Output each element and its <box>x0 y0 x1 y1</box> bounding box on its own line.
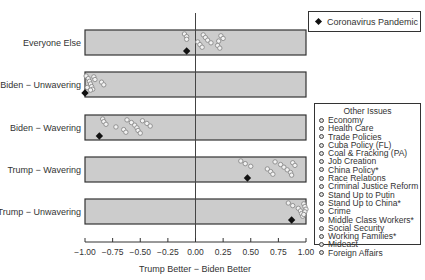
circle-marker-icon <box>319 134 324 139</box>
x-axis: −1.00−0.75−0.50−0.250.000.250.500.751.00 <box>74 238 314 257</box>
circle-marker-icon <box>319 118 324 123</box>
legend-list: EconomyHealth CareTrade PoliciesCuba Pol… <box>315 116 420 257</box>
circle-marker-icon <box>319 242 324 247</box>
x-tick-label: 0.75 <box>270 247 287 257</box>
legend-other-issues: Other Issues EconomyHealth CareTrade Pol… <box>314 103 421 245</box>
circle-marker-icon <box>319 192 324 197</box>
y-axis-labels: Everyone ElseBiden − UnwaveringBiden − W… <box>0 38 81 217</box>
issue-point <box>273 160 277 164</box>
issue-point <box>302 212 306 216</box>
issue-point <box>140 119 144 123</box>
category-label: Everyone Else <box>23 38 81 48</box>
circle-marker-icon <box>319 167 324 172</box>
circle-marker-icon <box>319 250 324 255</box>
x-tick-label: −1.00 <box>74 247 96 257</box>
x-axis-title: Trump Better − Biden Better <box>139 264 251 274</box>
issue-point <box>125 118 129 122</box>
circle-marker-icon <box>319 226 324 231</box>
issue-point <box>289 173 293 177</box>
issue-point <box>184 37 188 41</box>
issue-point <box>104 122 108 126</box>
issue-point <box>114 125 118 129</box>
legend-item: Foreign Affairs <box>319 249 420 257</box>
circle-marker-icon <box>319 234 324 239</box>
x-tick-label: −0.50 <box>129 247 151 257</box>
issue-point <box>200 45 204 49</box>
x-tick-label: −0.25 <box>157 247 179 257</box>
issue-point <box>93 77 97 81</box>
circle-marker-icon <box>319 201 324 206</box>
issue-point <box>102 83 106 87</box>
legend-item-label: Foreign Affairs <box>328 249 383 257</box>
issue-point <box>218 46 222 50</box>
issue-point <box>124 130 128 134</box>
circle-marker-icon <box>319 184 324 189</box>
x-tick-label: 1.00 <box>298 247 315 257</box>
x-tick-label: 0.25 <box>215 247 232 257</box>
issue-point <box>148 124 152 128</box>
issue-point <box>243 161 247 165</box>
issue-point <box>138 131 142 135</box>
issue-point <box>271 172 275 176</box>
x-tick-label: 0.00 <box>187 247 204 257</box>
x-tick-label: 0.50 <box>242 247 259 257</box>
category-label: Trump − Wavering <box>7 165 81 175</box>
circle-marker-icon <box>319 176 324 181</box>
issue-point <box>217 39 221 43</box>
circle-marker-icon <box>319 217 324 222</box>
circle-marker-icon <box>319 126 324 131</box>
category-label: Biden − Unwavering <box>0 80 81 90</box>
category-label: Trump − Unwavering <box>0 207 81 217</box>
legend-highlight: Coronavirus Pandemic <box>308 11 421 32</box>
circle-marker-icon <box>319 151 324 156</box>
issue-point <box>286 201 290 205</box>
circle-marker-icon <box>319 209 324 214</box>
issue-point <box>291 203 295 207</box>
x-tick-label: −0.75 <box>102 247 124 257</box>
issue-point <box>209 41 213 45</box>
issue-point <box>88 88 92 92</box>
circle-marker-icon <box>319 159 324 164</box>
issue-point <box>293 163 297 167</box>
diamond-marker-icon <box>315 18 322 25</box>
issue-point <box>249 164 253 168</box>
issue-point <box>221 36 225 40</box>
legend-highlight-label: Coronavirus Pandemic <box>327 17 418 27</box>
issue-point <box>239 159 243 163</box>
category-label: Biden − Wavering <box>10 123 81 133</box>
circle-marker-icon <box>319 143 324 148</box>
